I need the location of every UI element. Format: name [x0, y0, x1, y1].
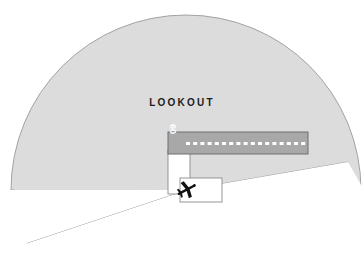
runway-designator: 09 [168, 124, 178, 134]
lookout-diagram-canvas: LOOKOUT 09 [0, 0, 364, 257]
diagram-svg [0, 0, 364, 257]
sector-bottom-mask-left [0, 190, 186, 257]
